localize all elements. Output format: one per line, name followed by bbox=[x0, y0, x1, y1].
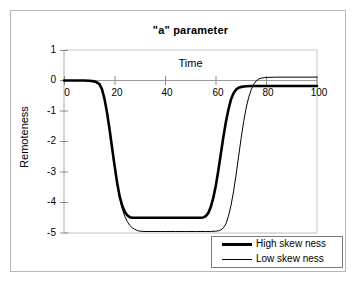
series-line bbox=[64, 81, 317, 218]
x-tick-label: 20 bbox=[102, 88, 132, 98]
y-tick-label: 0 bbox=[30, 75, 56, 85]
legend-label: High skew ness bbox=[256, 238, 326, 249]
legend-label: Low skew ness bbox=[256, 253, 324, 264]
y-tick-label: -5 bbox=[30, 228, 56, 238]
x-tick-label: 60 bbox=[203, 88, 233, 98]
y-tick-label: -1 bbox=[30, 106, 56, 116]
legend-line-swatch-thin bbox=[222, 259, 252, 260]
y-tick-label: 1 bbox=[30, 45, 56, 55]
legend-item-high-skewness: High skew ness bbox=[212, 237, 344, 252]
legend-line-swatch-thick bbox=[222, 243, 252, 246]
chart-figure: "a" parameter Time Remoteness bbox=[0, 0, 361, 282]
y-tick-label: -3 bbox=[30, 167, 56, 177]
x-tick-label: 80 bbox=[253, 88, 283, 98]
data-series-group bbox=[64, 77, 317, 231]
y-tick-label: -2 bbox=[30, 136, 56, 146]
x-tick-label: 40 bbox=[152, 88, 182, 98]
legend-item-low-skewness: Low skew ness bbox=[212, 252, 344, 267]
series-line bbox=[64, 77, 317, 231]
x-tick-label: 100 bbox=[304, 88, 334, 98]
chart-legend: High skew ness Low skew ness bbox=[211, 236, 343, 268]
y-tick-label: -4 bbox=[30, 197, 56, 207]
x-tick-label: 0 bbox=[52, 88, 82, 98]
